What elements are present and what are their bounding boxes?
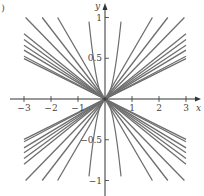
- y-axis-label: y: [94, 1, 101, 11]
- chart: −3−2−112310.5−0.5−1xy: [0, 0, 204, 196]
- x-tick-label: 2: [156, 103, 162, 113]
- x-tick-label: 3: [183, 103, 189, 113]
- x-tick-label: 1: [129, 103, 135, 113]
- y-tick-label: −0.5: [80, 135, 102, 145]
- x-tick-label: −1: [71, 103, 84, 113]
- y-tick-label: −1: [89, 176, 102, 186]
- x-axis-arrow-icon: [195, 97, 201, 102]
- y-tick-label: 1: [96, 13, 102, 23]
- x-axis-label: x: [196, 103, 201, 113]
- x-tick-label: −3: [17, 103, 31, 113]
- x-tick-label: −2: [44, 103, 57, 113]
- y-tick-label: 0.5: [88, 53, 103, 63]
- y-axis-arrow-icon: [103, 3, 108, 10]
